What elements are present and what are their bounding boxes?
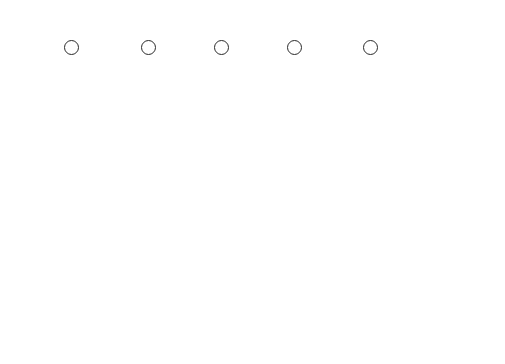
- group-marker-C: [214, 40, 229, 55]
- group-marker-B: [141, 40, 156, 55]
- group-marker-D: [287, 40, 302, 55]
- group-marker-A: [64, 40, 79, 55]
- group-marker-E: [363, 40, 378, 55]
- chart-figure: [0, 0, 505, 364]
- chart-vector-layer: [0, 0, 505, 364]
